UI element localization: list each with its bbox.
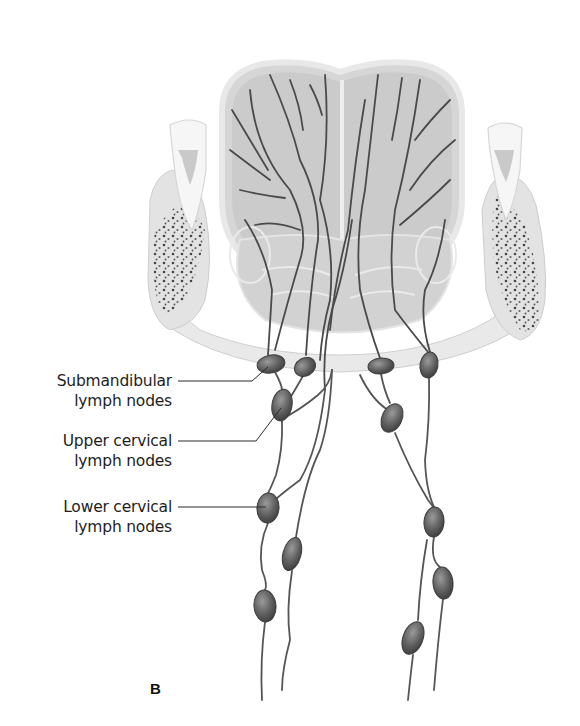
label-line-1: Upper cervical (63, 431, 172, 451)
label-line-2: lymph nodes (63, 517, 172, 537)
leader-lines (178, 367, 281, 507)
label-line-2: lymph nodes (63, 451, 172, 471)
label-lower-cervical-lymph-nodes: Lower cervical lymph nodes (63, 497, 172, 537)
label-upper-cervical-lymph-nodes: Upper cervical lymph nodes (63, 431, 172, 471)
lymph-node-upper-cervical-left (269, 388, 294, 423)
lymph-node-lower-cervical-left (253, 589, 278, 623)
left-mandible-tooth (148, 120, 210, 330)
leader-submandibular (178, 367, 268, 381)
lymph-node-lower-cervical-left (256, 492, 281, 524)
panel-letter: B (150, 680, 161, 697)
lymph-drainage-illustration (0, 0, 580, 726)
label-line-1: Lower cervical (63, 497, 172, 517)
leader-upper-cervical (178, 408, 281, 441)
lymph-node-lower-cervical-right (423, 506, 446, 538)
lymph-node-lower-cervical-left (279, 535, 305, 573)
label-submandibular-lymph-nodes: Submandibular lymph nodes (57, 371, 172, 411)
right-mandible-tooth (482, 123, 546, 340)
lymph-node-lower-cervical-right (398, 619, 428, 658)
label-line-2: lymph nodes (57, 391, 172, 411)
label-line-1: Submandibular (57, 371, 172, 391)
lymph-nodes (253, 351, 455, 658)
tissue-section (150, 62, 540, 372)
lymph-node-lower-cervical-right (432, 566, 455, 600)
